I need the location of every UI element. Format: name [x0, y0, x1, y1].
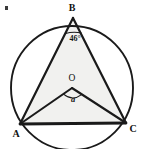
- circle-geometry-diagram: B A C O 46° a: [0, 0, 143, 149]
- vertex-label-a: A: [12, 128, 20, 139]
- scan-speck-artifact: [5, 6, 8, 10]
- vertex-label-b: B: [69, 2, 76, 13]
- segment-ac: [20, 123, 126, 124]
- vertex-label-c: C: [129, 123, 136, 134]
- center-label-o: O: [69, 73, 76, 83]
- angle-label-46-degrees: 46°: [69, 34, 80, 43]
- geometry-figure: B A C O 46° a: [0, 0, 143, 149]
